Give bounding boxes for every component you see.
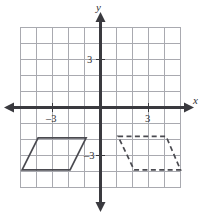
y-axis-arrow-up [96, 12, 106, 22]
x-tick-label-negative-3: –3 [45, 113, 57, 124]
parallelogram-preimage [22, 138, 86, 170]
x-axis [4, 103, 194, 113]
y-tick-label-positive-3: 3 [87, 54, 92, 65]
x-tick-label-positive-3: 3 [145, 113, 150, 124]
coordinate-plane-figure: x y –3 3 3 –3 [0, 0, 205, 216]
parallelogram-image [118, 136, 180, 170]
y-axis-label: y [95, 1, 101, 13]
x-axis-arrow-left [4, 103, 14, 113]
y-tick-label-negative-3: –3 [83, 150, 95, 161]
y-axis-arrow-down [96, 202, 106, 212]
graph-svg: x y –3 3 3 –3 [0, 0, 205, 216]
x-axis-label: x [192, 94, 198, 106]
y-axis [96, 12, 106, 212]
